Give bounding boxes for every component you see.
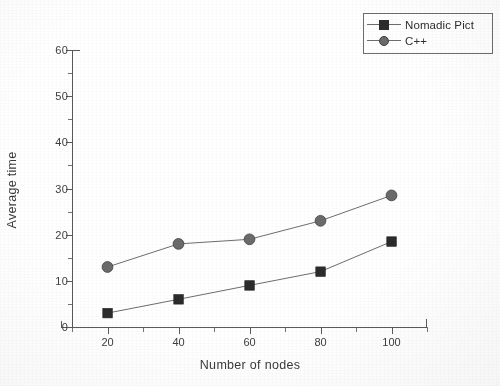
data-point — [315, 215, 326, 226]
data-point — [173, 239, 184, 250]
data-point — [245, 281, 255, 291]
legend-item-nomadic-pict[interactable]: Nomadic Pict — [367, 17, 488, 33]
legend-label-nomadic-pict: Nomadic Pict — [405, 19, 474, 31]
legend-item-cpp[interactable]: C++ — [367, 33, 488, 49]
series-c — [102, 190, 397, 272]
data-point — [174, 295, 184, 305]
data-point — [387, 237, 397, 247]
x-axis-title: Number of nodes — [0, 358, 500, 372]
circle-marker-icon — [367, 35, 401, 47]
data-point — [103, 308, 113, 318]
data-point — [316, 267, 326, 277]
series-line — [108, 242, 392, 314]
legend-label-cpp: C++ — [405, 35, 427, 47]
y-axis-title: Average time — [5, 151, 19, 228]
y-axis-title-wrapper: Average time — [8, 120, 30, 260]
chart-figure: 0102030405060 20406080100 Number of node… — [0, 0, 500, 386]
series-line — [108, 195, 392, 267]
legend: Nomadic Pict C++ — [363, 13, 493, 54]
data-point — [386, 190, 397, 201]
series-plot-layer — [0, 0, 500, 386]
square-marker-icon — [367, 19, 401, 31]
series-nomadic-pict — [103, 237, 397, 318]
data-point — [244, 234, 255, 245]
data-point — [102, 262, 113, 273]
